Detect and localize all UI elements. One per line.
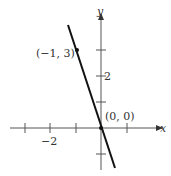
point-label-origin: (0, 0) bbox=[105, 110, 135, 123]
y-tick-label-2: 2 bbox=[104, 70, 111, 83]
function-line bbox=[68, 25, 115, 168]
x-tick-label-neg2: −2 bbox=[41, 135, 57, 148]
point-neg1-3 bbox=[75, 48, 79, 52]
point-label-neg1-3: (−1, 3) bbox=[36, 47, 75, 60]
y-axis-label: y bbox=[96, 5, 104, 18]
point-origin bbox=[99, 126, 103, 130]
line-graph: x y −2 2 (−1, 3) (0, 0) bbox=[0, 0, 171, 176]
x-axis-label: x bbox=[160, 122, 167, 135]
